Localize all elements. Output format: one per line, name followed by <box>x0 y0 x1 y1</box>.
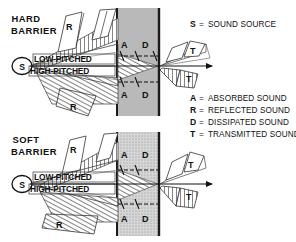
label-absorbed-top-hard: A <box>121 40 128 50</box>
legend-text-1: ABSORBED SOUND <box>208 94 287 103</box>
legend-text-4: TRANSMITTED SOUND <box>208 130 296 139</box>
label-reflected-lower-soft: R <box>56 220 63 230</box>
panel-title-hard-line1: HARD <box>11 13 40 24</box>
label-low-pitched-hard: LOW-PITCHED <box>34 54 92 64</box>
label-transmitted-lower-soft: T <box>186 192 192 202</box>
label-reflected-lower-hard: R <box>70 102 77 112</box>
legend-eq-1: = <box>199 94 204 103</box>
legend-eq-2: = <box>199 106 204 115</box>
label-transmitted-lower-hard: T <box>186 74 192 84</box>
panel-title-hard-line2: BARRIER <box>11 25 57 36</box>
acoustics-diagram: R R S LOW-PITCHED HIGH-PITCHED <box>0 0 296 242</box>
legend-eq-3: = <box>199 118 204 127</box>
source-label-soft: S <box>19 180 25 190</box>
label-reflected-upper-soft: R <box>70 145 77 155</box>
legend-key-3: D <box>190 117 196 127</box>
legend-eq-4: = <box>199 130 204 139</box>
label-high-pitched-soft: HIGH-PITCHED <box>30 184 89 194</box>
figure-canvas: R R S LOW-PITCHED HIGH-PITCHED <box>0 0 296 242</box>
label-dissipated-bottom-soft: D <box>142 214 149 224</box>
legend-key-1: A <box>190 93 196 103</box>
panel-title-soft-line1: SOFT <box>13 134 40 145</box>
label-transmitted-upper-hard: T <box>190 46 196 56</box>
label-transmitted-upper-soft: T <box>188 160 194 170</box>
label-dissipated-bottom-hard: D <box>142 90 149 100</box>
legend-text-0: SOUND SOURCE <box>208 20 277 29</box>
legend-eq-0: = <box>199 20 204 29</box>
legend-key-2: R <box>190 105 197 115</box>
label-dissipated-top-hard: D <box>142 40 149 50</box>
legend-text-2: REFLECTED SOUND <box>208 106 290 115</box>
label-absorbed-top-soft: A <box>121 150 128 160</box>
label-reflected-upper-hard: R <box>66 22 73 32</box>
label-dissipated-top-soft: D <box>142 150 149 160</box>
panel-title-soft-line2: BARRIER <box>11 146 57 157</box>
legend-text-3: DISSIPATED SOUND <box>208 118 289 127</box>
legend-key-4: T <box>190 129 196 139</box>
source-label-hard: S <box>19 62 25 72</box>
label-absorbed-bottom-hard: A <box>121 90 128 100</box>
label-absorbed-bottom-soft: A <box>121 214 128 224</box>
label-high-pitched-hard: HIGH-PITCHED <box>30 66 89 76</box>
label-low-pitched-soft: LOW-PITCHED <box>34 172 92 182</box>
legend-key-0: S <box>190 19 196 29</box>
